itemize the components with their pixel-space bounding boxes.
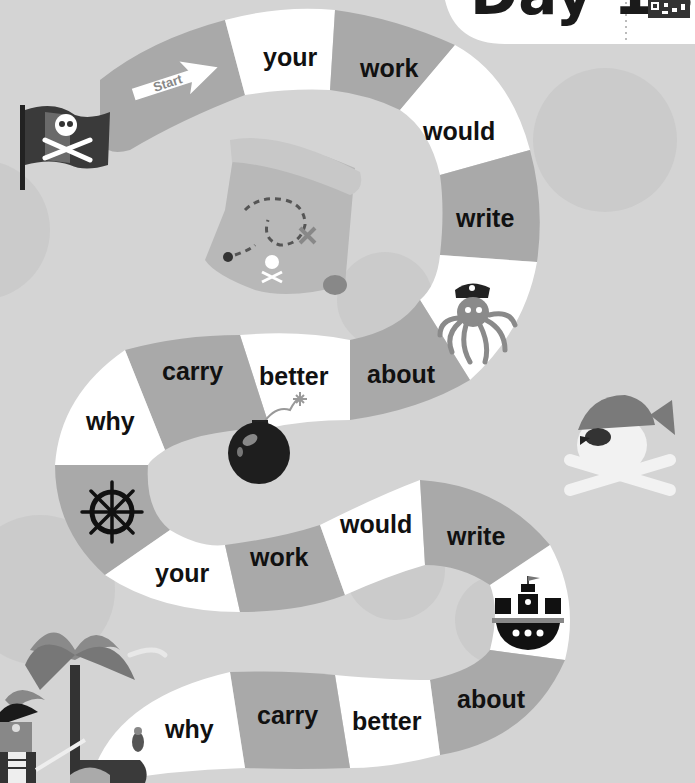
pirate-flag-icon <box>20 105 110 190</box>
space-label-14: write <box>446 522 505 550</box>
space-label-2: work <box>359 54 418 82</box>
space-label-7: better <box>259 362 329 390</box>
space-label-3: would <box>422 117 495 145</box>
space-label-16: about <box>457 685 526 713</box>
qr-code-icon <box>648 0 690 18</box>
treasure-chest-icon <box>70 760 147 783</box>
title-card: Day 18 <box>445 0 695 44</box>
ship-wheel-icon <box>82 482 142 542</box>
space-label-8: carry <box>162 357 223 385</box>
space-label-1: your <box>263 43 317 71</box>
game-board: Day 18 <box>0 0 695 783</box>
space-label-4: write <box>455 204 514 232</box>
space-label-13: would <box>339 510 412 538</box>
space-label-12: work <box>249 543 308 571</box>
pirate-skull-bandana-icon <box>570 395 675 490</box>
space-label-18: carry <box>257 701 318 729</box>
treasure-map-icon <box>205 138 361 295</box>
space-label-17: better <box>352 707 422 735</box>
space-label-19: why <box>164 715 214 743</box>
space-label-6: about <box>367 360 436 388</box>
space-label-9: why <box>85 407 135 435</box>
space-label-11: your <box>155 559 209 587</box>
